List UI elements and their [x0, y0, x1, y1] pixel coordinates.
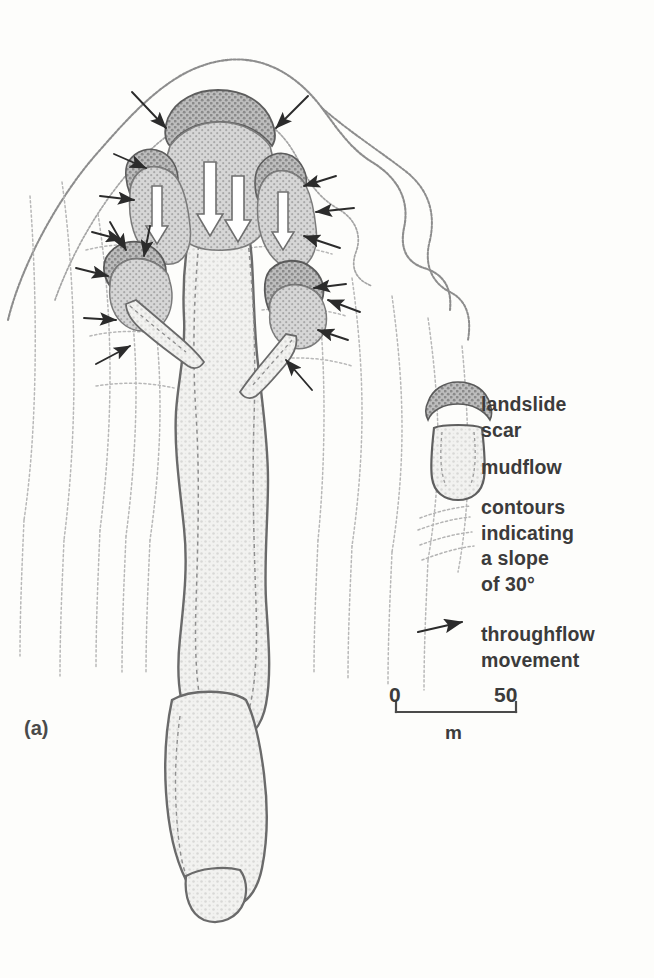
- figure-part-label: (a): [24, 717, 48, 740]
- legend-label-throughflow: throughflow movement: [481, 622, 595, 673]
- landslide-mudflow-map: [0, 0, 654, 978]
- scale-bar-min-label: 0: [389, 683, 401, 707]
- legend-label-contours: contours indicating a slope of 30°: [481, 495, 574, 597]
- mudflow-terminus-tip: [186, 868, 246, 922]
- legend-label-mudflow: mudflow: [481, 455, 562, 481]
- throughflow-arrow: [100, 196, 134, 200]
- throughflow-arrow: [286, 360, 312, 390]
- throughflow-arrow: [316, 208, 354, 212]
- figure-page: landslide scar mudflow contours indicati…: [0, 0, 654, 978]
- scale-bar-unit-label: m: [445, 722, 462, 744]
- mudflow-icon: [431, 425, 485, 500]
- main-mudflow-tongue: [176, 188, 270, 745]
- scale-bar-max-label: 50: [494, 683, 517, 707]
- legend-label-landslide-scar: landslide scar: [481, 392, 566, 443]
- throughflow-arrow: [96, 346, 130, 364]
- throughflow-arrow: [84, 318, 116, 320]
- upper-right-scar-lobe: [255, 153, 317, 268]
- throughflow-arrow: [276, 96, 308, 128]
